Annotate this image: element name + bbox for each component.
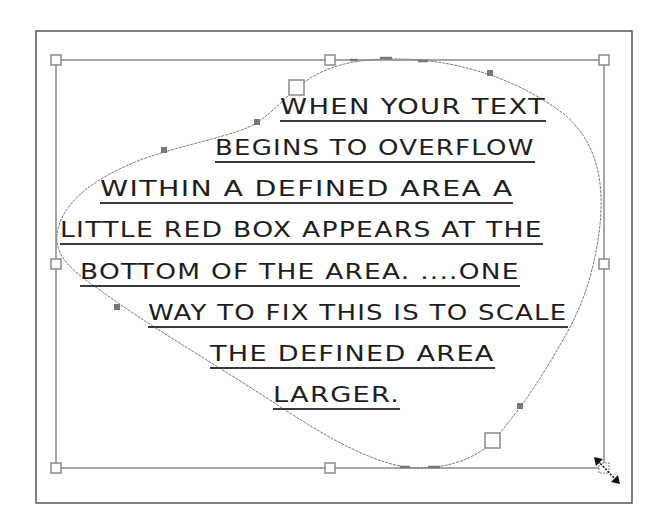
text-line[interactable]: LARGER. xyxy=(273,383,400,410)
handle-top-middle[interactable] xyxy=(325,55,335,65)
control-point[interactable] xyxy=(254,119,260,125)
handle-top-right[interactable] xyxy=(599,55,609,65)
text-line[interactable]: BEGINS TO OVERFLOW xyxy=(215,136,535,163)
text-line[interactable]: WHEN YOUR TEXT xyxy=(280,95,546,122)
anchor-point-top[interactable] xyxy=(289,80,304,95)
handle-middle-right[interactable] xyxy=(599,259,609,269)
control-point[interactable] xyxy=(487,70,493,76)
anchor-point-bottom[interactable] xyxy=(485,433,500,448)
control-point[interactable] xyxy=(517,403,523,409)
control-point[interactable] xyxy=(161,147,167,153)
text-line[interactable]: WAY TO FIX THIS IS TO SCALE xyxy=(148,301,568,328)
handle-bottom-left[interactable] xyxy=(51,463,61,473)
text-line[interactable]: WITHIN A DEFINED AREA A xyxy=(100,177,513,204)
handle-top-left[interactable] xyxy=(51,55,61,65)
diagonal-resize-icon xyxy=(594,457,620,484)
text-line[interactable]: BOTTOM OF THE AREA. ....ONE xyxy=(80,260,520,287)
text-line[interactable]: LITTLE RED BOX APPEARS AT THE xyxy=(60,218,543,245)
control-point[interactable] xyxy=(114,304,120,310)
handle-middle-left[interactable] xyxy=(51,259,61,269)
handle-bottom-middle[interactable] xyxy=(325,463,335,473)
text-line[interactable]: THE DEFINED AREA xyxy=(210,342,495,369)
